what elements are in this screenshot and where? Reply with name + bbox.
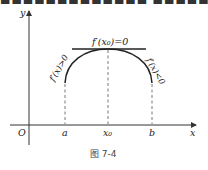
right-slope-label: f′(x)<0	[144, 55, 168, 87]
function-curve	[65, 49, 152, 83]
tick-label-b: b	[149, 127, 155, 138]
tangent-label: f′(x₀)=0	[91, 36, 128, 47]
left-slope-label: f′(x)>0	[47, 52, 71, 84]
tick-label-x0: x₀	[103, 127, 112, 138]
origin-label: O	[18, 127, 26, 138]
x-axis-label: x	[190, 127, 196, 138]
tick-label-a: a	[62, 127, 68, 138]
y-axis-label: y	[19, 7, 26, 18]
figure-caption: 图 7-4	[90, 149, 117, 159]
derivative-diagram: f′(x₀)=0 f′(x)>0 f′(x)<0 O a x₀ b x y 图 …	[0, 0, 208, 170]
